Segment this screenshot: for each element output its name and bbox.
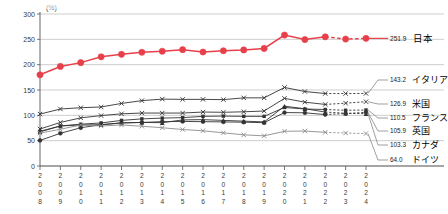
legend-name-6: ドイツ <box>412 155 439 165</box>
y-axis-label: 50 <box>27 137 35 144</box>
x-axis-label-digit: 2 <box>344 189 348 196</box>
x-axis-label-digit: 0 <box>181 181 185 188</box>
x-axis-label-digit: 1 <box>99 189 103 196</box>
x-axis-label-digit: 4 <box>364 198 368 205</box>
legend-leader-2 <box>368 102 388 104</box>
legend-name-5: カナダ <box>412 139 439 150</box>
x-axis-label-digit: 9 <box>262 198 266 205</box>
x-axis-label-digit: 3 <box>140 198 144 205</box>
x-axis-label-digit: 0 <box>283 181 287 188</box>
x-axis-label-digit: 1 <box>303 198 307 205</box>
x-axis-label-digit: 2 <box>181 172 185 179</box>
legend-leader-6 <box>368 134 388 160</box>
x-axis-label-digit: 0 <box>99 181 103 188</box>
y-axis-label: 0 <box>31 163 35 170</box>
y-axis-label: 100 <box>23 112 35 119</box>
x-axis-label-digit: 1 <box>99 198 103 205</box>
x-axis-label-digit: 3 <box>344 198 348 205</box>
series-line-5 <box>38 104 369 134</box>
x-axis-label-digit: 0 <box>222 181 226 188</box>
x-axis-label-digit: 2 <box>323 172 327 179</box>
x-axis-label-digit: 0 <box>59 181 63 188</box>
x-axis-label-digit: 2 <box>140 172 144 179</box>
legend-value-5: 103.3 <box>390 141 406 148</box>
x-axis-label-digit: 2 <box>303 172 307 179</box>
legend-leader-1 <box>368 80 388 93</box>
x-axis-label-digit: 4 <box>160 198 164 205</box>
x-axis-label-digit: 0 <box>160 181 164 188</box>
x-axis-label-digit: 1 <box>222 189 226 196</box>
x-axis-label-digit: 0 <box>79 181 83 188</box>
x-axis-label-digit: 8 <box>38 198 42 205</box>
legend-name-2: 米国 <box>412 98 430 109</box>
x-axis-label-digit: 0 <box>59 189 63 196</box>
legend-leader-3 <box>368 110 388 118</box>
chart-container: 050100150200250300(%)2008200920102011201… <box>0 0 448 214</box>
y-axis-label: 250 <box>23 36 35 43</box>
x-axis-label-digit: 0 <box>140 181 144 188</box>
x-axis-label-digit: 7 <box>222 198 226 205</box>
x-axis-label-digit: 0 <box>344 181 348 188</box>
x-axis-label-digit: 0 <box>120 181 124 188</box>
x-axis-label-digit: 1 <box>140 189 144 196</box>
series-japan <box>37 32 369 78</box>
legend-name-1: イタリア <box>412 75 448 85</box>
x-axis-label-digit: 0 <box>364 181 368 188</box>
x-axis-label-digit: 2 <box>364 189 368 196</box>
x-axis-label-digit: 2 <box>79 172 83 179</box>
x-axis-label-digit: 2 <box>120 198 124 205</box>
legend-value-2: 126.9 <box>390 100 406 107</box>
x-axis-label-digit: 2 <box>201 172 205 179</box>
x-axis-label-digit: 9 <box>59 198 63 205</box>
x-axis-label-digit: 0 <box>262 181 266 188</box>
x-axis-label-digit: 2 <box>38 172 42 179</box>
x-axis-label-digit: 1 <box>181 189 185 196</box>
x-axis-label-digit: 5 <box>181 198 185 205</box>
legend-name-3: フランス <box>412 113 448 123</box>
x-axis-label-digit: 1 <box>79 189 83 196</box>
x-axis-label-digit: 0 <box>242 181 246 188</box>
x-axis-label-digit: 2 <box>303 189 307 196</box>
cropped-title-band <box>0 0 448 9</box>
x-axis-label-digit: 2 <box>222 172 226 179</box>
legend-value-6: 64.0 <box>390 156 403 163</box>
legend-value-japan: 251.9 <box>390 35 407 42</box>
x-axis-label-digit: 2 <box>262 172 266 179</box>
x-axis-label-digit: 2 <box>59 172 63 179</box>
x-axis-label-digit: 0 <box>201 181 205 188</box>
x-axis-label-digit: 1 <box>120 189 124 196</box>
legend-value-4: 105.9 <box>390 127 406 134</box>
x-axis-label-digit: 2 <box>364 172 368 179</box>
x-axis-label-digit: 2 <box>242 172 246 179</box>
x-axis-label-digit: 2 <box>160 172 164 179</box>
line-chart: 050100150200250300(%)2008200920102011201… <box>0 0 448 214</box>
x-axis-label-digit: 2 <box>120 172 124 179</box>
x-axis-label-digit: 2 <box>344 172 348 179</box>
x-axis-label-digit: 1 <box>160 189 164 196</box>
legend-name-4: 英国 <box>412 125 430 136</box>
y-axis-label: 200 <box>23 61 35 68</box>
x-axis-label-digit: 1 <box>242 189 246 196</box>
x-axis-label-digit: 0 <box>283 198 287 205</box>
x-axis-label-digit: 6 <box>201 198 205 205</box>
x-axis-label-digit: 2 <box>99 172 103 179</box>
legend-value-1: 143.2 <box>390 76 406 83</box>
x-axis-label-digit: 2 <box>283 189 287 196</box>
x-axis-label-digit: 2 <box>283 172 287 179</box>
x-axis-label-digit: 1 <box>201 189 205 196</box>
legend-name-japan: 日本 <box>413 33 433 44</box>
y-axis-label: 300 <box>23 11 35 18</box>
y-axis-label: 150 <box>23 87 35 94</box>
x-axis-label-digit: 0 <box>38 181 42 188</box>
x-axis-label-digit: 8 <box>242 198 246 205</box>
x-axis-label-digit: 1 <box>262 189 266 196</box>
x-axis-label-digit: 2 <box>323 198 327 205</box>
x-axis-label-digit: 0 <box>303 181 307 188</box>
series-line-6 <box>38 123 368 138</box>
x-axis-label-digit: 0 <box>79 198 83 205</box>
x-axis-label-digit: 2 <box>323 189 327 196</box>
x-axis-label-digit: 0 <box>38 189 42 196</box>
x-axis-label-digit: 0 <box>323 181 327 188</box>
legend-value-3: 110.5 <box>390 114 406 121</box>
